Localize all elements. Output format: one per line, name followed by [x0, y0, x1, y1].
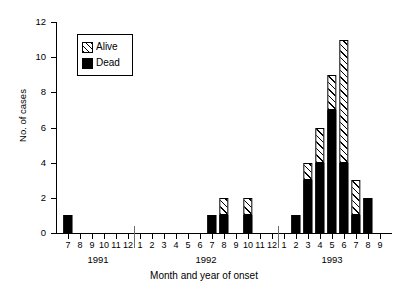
bar-stack — [363, 198, 372, 233]
x-tick-label-month: 2 — [293, 241, 298, 250]
x-tick-mark — [320, 234, 321, 239]
x-tick-label-month: 11 — [111, 241, 120, 250]
chart-legend: Alive Dead — [77, 34, 133, 76]
y-tick-label: 2 — [22, 193, 46, 203]
x-tick-mark — [116, 234, 117, 239]
x-tick-label-month: 7 — [353, 241, 358, 250]
bar-stack — [219, 198, 228, 233]
y-tick-label: 10 — [22, 52, 46, 62]
x-tick-label-month: 10 — [99, 241, 109, 250]
x-tick-mark — [164, 234, 165, 239]
x-tick-mark — [284, 234, 285, 239]
x-tick-label-month: 1 — [281, 241, 286, 250]
x-tick-mark — [260, 234, 261, 239]
x-tick-mark — [128, 234, 129, 239]
x-tick-label-month: 6 — [197, 241, 202, 250]
bar-segment-alive — [315, 128, 324, 163]
x-tick-mark — [296, 234, 297, 239]
x-tick-label-month: 12 — [123, 241, 133, 250]
legend-item-alive: Alive — [82, 39, 128, 55]
bar-stack — [291, 215, 300, 233]
y-tick-label: 12 — [22, 17, 46, 27]
bar-stack — [315, 128, 324, 233]
x-tick-mark — [68, 234, 69, 239]
x-tick-label-month: 8 — [221, 241, 226, 250]
legend-item-dead: Dead — [82, 55, 128, 71]
x-tick-label-month: 10 — [243, 241, 253, 250]
x-tick-label-month: 9 — [233, 241, 238, 250]
legend-swatch-alive-icon — [82, 42, 93, 53]
x-tick-label-month: 3 — [305, 241, 310, 250]
x-tick-mark — [332, 234, 333, 239]
x-tick-label-month: 1 — [137, 241, 142, 250]
x-tick-label-month: 5 — [329, 241, 334, 250]
bar-segment-alive — [303, 163, 312, 181]
bar-segment-alive — [339, 40, 348, 163]
bar-segment-dead — [339, 163, 348, 233]
x-tick-label-month: 4 — [173, 241, 178, 250]
x-tick-label-month: 7 — [209, 241, 214, 250]
y-tick-label: 0 — [22, 228, 46, 238]
bar-segment-dead — [291, 215, 300, 233]
x-tick-label-month: 6 — [341, 241, 346, 250]
x-axis-title: Month and year of onset — [0, 270, 408, 281]
bar-segment-dead — [207, 215, 216, 233]
x-tick-mark — [80, 234, 81, 239]
legend-label-dead: Dead — [96, 58, 120, 68]
x-tick-label-month: 2 — [149, 241, 154, 250]
y-tick-label: 4 — [22, 158, 46, 168]
x-tick-mark — [368, 234, 369, 239]
x-tick-mark — [188, 234, 189, 239]
x-tick-label-month: 3 — [161, 241, 166, 250]
bar-stack — [63, 215, 72, 233]
year-separator — [134, 226, 135, 248]
x-tick-label-month: 5 — [185, 241, 190, 250]
x-axis-year-label: 1992 — [195, 254, 216, 265]
x-tick-mark — [104, 234, 105, 239]
bar-segment-dead — [303, 180, 312, 233]
chart-container: 024681012 No. of cases 78910111212345678… — [0, 0, 408, 290]
x-tick-mark — [212, 234, 213, 239]
left-edge-artifact-text — [0, 150, 12, 270]
x-tick-mark — [248, 234, 249, 239]
x-tick-mark — [380, 234, 381, 239]
x-tick-mark — [152, 234, 153, 239]
x-tick-mark — [236, 234, 237, 239]
x-tick-label-month: 12 — [267, 241, 277, 250]
x-tick-label-month: 7 — [65, 241, 70, 250]
bar-segment-dead — [363, 198, 372, 233]
x-tick-mark — [140, 234, 141, 239]
bar-segment-alive — [219, 198, 228, 216]
bar-stack — [351, 180, 360, 233]
bar-segment-dead — [219, 215, 228, 233]
x-tick-label-month: 9 — [377, 241, 382, 250]
x-axis-year-label: 1991 — [87, 254, 108, 265]
bar-stack — [243, 198, 252, 233]
x-tick-mark — [272, 234, 273, 239]
x-tick-mark — [176, 234, 177, 239]
bar-segment-dead — [315, 163, 324, 233]
x-tick-mark — [200, 234, 201, 239]
x-tick-mark — [356, 234, 357, 239]
bar-segment-alive — [243, 198, 252, 216]
bar-segment-alive — [327, 75, 336, 110]
bar-segment-dead — [327, 110, 336, 233]
x-tick-label-month: 8 — [77, 241, 82, 250]
x-tick-label-month: 9 — [89, 241, 94, 250]
x-axis-year-label: 1993 — [321, 254, 342, 265]
bar-stack — [327, 75, 336, 233]
year-separator — [278, 226, 279, 248]
bar-segment-dead — [63, 215, 72, 233]
x-tick-mark — [344, 234, 345, 239]
bar-stack — [207, 215, 216, 233]
bar-stack — [303, 163, 312, 233]
x-tick-mark — [224, 234, 225, 239]
bar-segment-dead — [351, 215, 360, 233]
bar-segment-dead — [243, 215, 252, 233]
x-tick-label-month: 4 — [317, 241, 322, 250]
x-tick-mark — [92, 234, 93, 239]
x-tick-mark — [308, 234, 309, 239]
legend-swatch-dead-icon — [82, 58, 93, 69]
bar-segment-alive — [351, 180, 360, 215]
legend-label-alive: Alive — [96, 42, 118, 52]
